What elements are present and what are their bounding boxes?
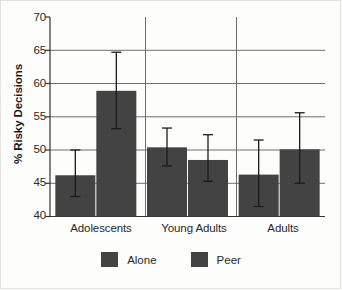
legend-swatch-peer-icon (191, 252, 208, 267)
bar-adolescents-alone (55, 150, 95, 217)
chart-figure: % Risky Decisions 70 65 60 55 50 45 40 A… (0, 0, 342, 290)
legend-entry-alone: Alone (101, 252, 156, 267)
plot-area (0, 0, 342, 290)
bar-young-adults-peer (188, 135, 228, 217)
bar-adults-alone (239, 140, 279, 216)
legend-label-peer: Peer (217, 254, 241, 266)
legend: Alone Peer (0, 252, 342, 267)
bar-young-adults-alone (147, 128, 187, 216)
y-axis-ticks (45, 17, 50, 217)
legend-label-alone: Alone (127, 254, 156, 266)
bar-adolescents-peer (96, 52, 136, 216)
bars-layer (55, 52, 319, 216)
legend-swatch-alone-icon (101, 252, 118, 267)
bar-adults-peer (280, 113, 320, 217)
legend-entry-peer: Peer (191, 252, 241, 267)
